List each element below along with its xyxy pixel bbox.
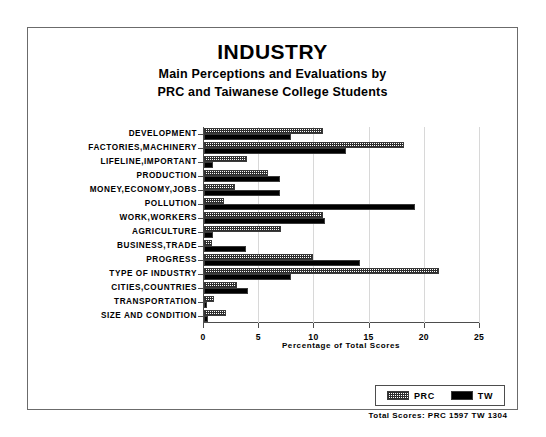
legend-item-tw: TW [451,391,493,401]
total-scores-note: Total Scores: PRC 1597 TW 1304 [348,411,528,420]
legend-swatch-tw-icon [451,391,473,400]
y-axis-tick [198,134,203,135]
gridline [424,127,425,323]
gridline [479,127,480,323]
plot-area: DEVELOPMENTFACTORIES,MACHINERYLIFELINE,I… [28,127,519,327]
category-label: CITIES,COUNTRIES [111,281,197,295]
category-label: SIZE AND CONDITION [101,309,197,323]
legend-label-prc: PRC [414,391,435,401]
bar-tw [204,274,291,280]
bar-tw [204,218,325,224]
chart-page: INDUSTRY Main Perceptions and Evaluation… [0,0,546,437]
gridline [313,127,314,323]
bar-tw [204,246,246,252]
x-axis-tick [424,323,425,328]
figure-frame: INDUSTRY Main Perceptions and Evaluation… [27,27,518,410]
category-label: PROGRESS [146,253,197,267]
x-axis-tick [479,323,480,328]
y-axis-tick [198,162,203,163]
category-label: MONEY,ECONOMY,JOBS [90,183,197,197]
x-axis-tick [313,323,314,328]
chart-legend: PRC TW [375,385,505,406]
bar-tw [204,176,280,182]
bar-tw [204,302,207,308]
chart-subtitle-line-1: Main Perceptions and Evaluations by [28,67,517,82]
bar-tw [204,260,360,266]
category-label: POLLUTION [145,197,197,211]
chart-subtitle-line-2: PRC and Taiwanese College Students [28,85,517,100]
y-axis-tick [198,288,203,289]
page-title: INDUSTRY [28,40,517,64]
y-axis-tick [198,260,203,261]
y-axis-tick [198,218,203,219]
category-label: DEVELOPMENT [129,127,197,141]
bar-tw [204,316,208,322]
gridline [369,127,370,323]
y-axis-tick [198,302,203,303]
category-label: WORK,WORKERS [119,211,197,225]
bar-tw [204,162,213,168]
bar-tw [204,148,346,154]
legend-item-prc: PRC [387,391,435,401]
bar-prc [204,226,281,232]
category-label: FACTORIES,MACHINERY [88,141,197,155]
x-axis-line [203,322,479,323]
legend-label-tw: TW [478,391,493,401]
y-axis-tick [198,246,203,247]
y-axis-tick [198,316,203,317]
y-axis-tick [198,148,203,149]
bar-tw [204,204,415,210]
plot-axes: 0510152025 [203,127,491,323]
y-axis-tick [198,190,203,191]
category-label: LIFELINE,IMPORTANT [100,155,197,169]
y-axis-tick [198,204,203,205]
title-block: INDUSTRY Main Perceptions and Evaluation… [28,40,517,99]
y-axis-tick [198,274,203,275]
category-label: PRODUCTION [136,169,197,183]
y-axis-tick [198,232,203,233]
bar-tw [204,288,248,294]
gridline [258,127,259,323]
bar-tw [204,232,213,238]
category-label: AGRICULTURE [132,225,197,239]
x-axis-tick [258,323,259,328]
y-axis-tick [198,176,203,177]
x-axis-title: Percentage of Total Scores [203,341,479,350]
x-axis-tick [203,323,204,328]
category-label: TYPE OF INDUSTRY [109,267,197,281]
bar-tw [204,134,291,140]
category-axis-labels: DEVELOPMENTFACTORIES,MACHINERYLIFELINE,I… [28,127,203,323]
x-axis-tick [369,323,370,328]
legend-swatch-prc-icon [387,391,409,400]
category-label: BUSINESS,TRADE [117,239,197,253]
category-label: TRANSPORTATION [114,295,197,309]
bar-tw [204,190,280,196]
